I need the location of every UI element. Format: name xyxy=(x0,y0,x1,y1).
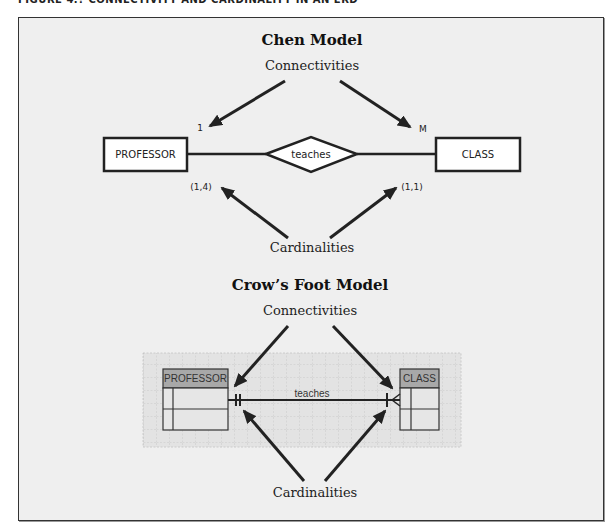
chen-relationship-teaches[interactable]: teaches xyxy=(266,137,357,172)
chen-cardinality-left: (1,4) xyxy=(190,182,211,192)
crowsfoot-cardinalities-label: Cardinalities xyxy=(273,485,358,500)
chen-entity-professor-label: PROFESSOR xyxy=(115,149,175,160)
diagram-canvas: Chen Model Connectivities 1 M PROFESSOR … xyxy=(0,0,615,530)
chen-connectivity-left: 1 xyxy=(197,123,203,133)
chen-model: Chen Model Connectivities 1 M PROFESSOR … xyxy=(104,31,520,255)
chen-connectivity-right: M xyxy=(419,124,427,134)
chen-connectivities-label: Connectivities xyxy=(265,58,359,73)
chen-connectivity-arrow-right xyxy=(340,81,410,127)
chen-entity-class[interactable]: CLASS xyxy=(436,138,520,171)
crowsfoot-entity-professor[interactable]: PROFESSOR xyxy=(163,369,228,430)
chen-entity-professor[interactable]: PROFESSOR xyxy=(104,138,187,171)
chen-cardinality-arrow-right xyxy=(330,188,396,238)
chen-relationship-label: teaches xyxy=(291,149,330,160)
chen-title: Chen Model xyxy=(262,31,363,49)
chen-cardinality-arrow-left xyxy=(222,188,288,238)
crowsfoot-relationship-label: teaches xyxy=(294,388,329,399)
crowsfoot-model: Crow’s Foot Model Connectivities PROFESS… xyxy=(143,276,461,500)
crowsfoot-connectivities-label: Connectivities xyxy=(263,303,357,318)
crowsfoot-entity-class[interactable]: CLASS xyxy=(400,369,439,430)
chen-cardinalities-label: Cardinalities xyxy=(270,240,355,255)
chen-cardinality-right: (1,1) xyxy=(401,182,422,192)
chen-entity-class-label: CLASS xyxy=(462,149,494,160)
chen-connectivity-arrow-left xyxy=(210,81,285,126)
crowsfoot-entity-class-label: CLASS xyxy=(403,373,436,384)
crowsfoot-entity-professor-label: PROFESSOR xyxy=(164,373,227,384)
crowsfoot-title: Crow’s Foot Model xyxy=(232,276,389,294)
